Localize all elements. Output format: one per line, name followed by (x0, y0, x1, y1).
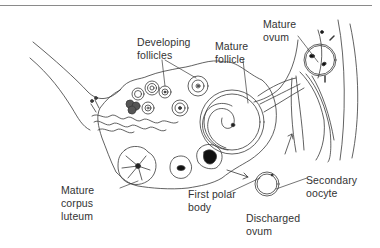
label-secondary-oocyte: Secondary oocyte (306, 174, 357, 200)
label-discharged-ovum: Discharged ovum (246, 212, 300, 238)
label-developing-follicles: Developing follicles (137, 36, 191, 62)
label-first-polar-body: First polar body (188, 188, 236, 214)
label-mature-follicle: Mature follicle (215, 40, 248, 66)
small-corpus (170, 156, 192, 178)
ovary-outline (98, 61, 277, 189)
label-mature-ovum: Mature ovum (263, 18, 296, 44)
arrows (227, 134, 293, 179)
developing-follicles (126, 76, 208, 116)
discharged-ovum (255, 172, 279, 196)
ruptured-follicle (197, 144, 222, 168)
label-mature-corpus-luteum: Mature corpus luteum (61, 184, 94, 223)
